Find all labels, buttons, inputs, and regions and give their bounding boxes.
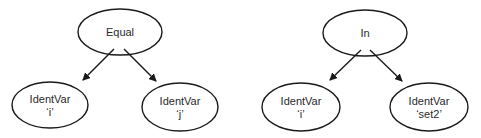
node-identvar-i-left (12, 82, 88, 128)
node-identvar-j-line2: ‘j’ (176, 108, 183, 120)
node-identvar-set2-line1: IdentVar (409, 95, 450, 107)
node-identvar-i-left-line1: IdentVar (30, 93, 71, 105)
edge-in-right (370, 50, 402, 81)
tree-in: In IdentVar ‘i’ IdentVar ‘set2’ (262, 10, 468, 131)
node-identvar-i-right-line1: IdentVar (281, 95, 322, 107)
diagram-canvas: Equal IdentVar ‘i’ IdentVar ‘j’ In Ident… (0, 0, 481, 138)
node-identvar-j (142, 83, 218, 131)
node-in-label: In (360, 27, 369, 39)
edge-equal-right (124, 49, 156, 81)
node-identvar-i-left-line2: ‘i’ (46, 106, 53, 118)
edge-in-left (330, 50, 361, 80)
node-equal-label: Equal (106, 26, 134, 38)
node-identvar-j-line1: IdentVar (160, 95, 201, 107)
node-identvar-set2 (390, 83, 468, 131)
node-identvar-set2-line2: ‘set2’ (416, 108, 442, 120)
node-identvar-i-right-line2: ‘i’ (297, 108, 304, 120)
tree-equal: Equal IdentVar ‘i’ IdentVar ‘j’ (12, 9, 218, 131)
edge-equal-left (83, 49, 114, 80)
node-identvar-i-right (262, 83, 340, 131)
